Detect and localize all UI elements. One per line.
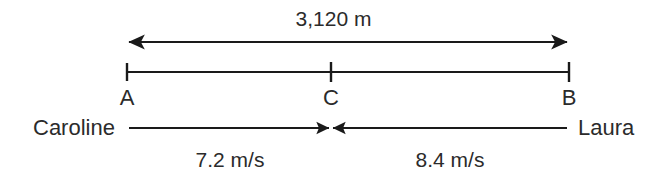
distance-rate-diagram: 3,120 m A C B Caroline Laura 7.2 m/s 8.4… — [0, 0, 669, 177]
runner-name-laura: Laura — [578, 117, 634, 139]
point-label-a: A — [107, 87, 147, 109]
point-label-c: C — [311, 87, 351, 109]
point-label-b: B — [549, 87, 589, 109]
speed-label-caroline: 7.2 m/s — [150, 149, 310, 170]
speed-label-laura: 8.4 m/s — [370, 149, 530, 170]
runner-name-caroline: Caroline — [33, 117, 115, 139]
total-distance-label: 3,120 m — [0, 8, 668, 29]
